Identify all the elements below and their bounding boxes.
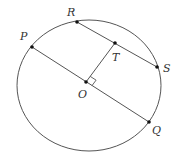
point-S: [155, 65, 159, 69]
point-R: [75, 20, 79, 24]
segment-PQ: [32, 47, 149, 122]
circle-O: [17, 20, 161, 151]
segments: [32, 22, 157, 122]
label-T: T: [112, 51, 121, 64]
point-T: [113, 41, 117, 45]
point-Q: [147, 120, 151, 124]
label-S: S: [163, 62, 171, 75]
points: [30, 20, 159, 124]
point-O: [84, 80, 88, 84]
label-Q: Q: [152, 124, 161, 137]
label-P: P: [19, 30, 28, 43]
label-R: R: [66, 6, 75, 19]
geometry-diagram: PRTSOQ: [0, 0, 180, 159]
point-labels: PRTSOQ: [19, 6, 171, 137]
label-O: O: [78, 88, 87, 101]
point-P: [30, 45, 34, 49]
